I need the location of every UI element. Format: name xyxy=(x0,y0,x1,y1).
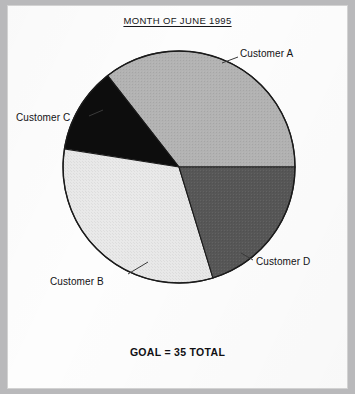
pie-label-customer-a: Customer A xyxy=(240,48,293,59)
pie-chart: Customer A Customer C Customer B Custome… xyxy=(8,6,347,388)
pie-chart-svg xyxy=(8,6,347,388)
pie-label-customer-c: Customer C xyxy=(16,112,70,123)
pie-label-customer-b: Customer B xyxy=(50,276,104,287)
pie-label-customer-d: Customer D xyxy=(256,256,310,267)
chart-goal-caption: GOAL = 35 TOTAL xyxy=(8,346,347,358)
document-page: MONTH OF JUNE 1995 xyxy=(8,6,347,388)
screenshot-root: MONTH OF JUNE 1995 xyxy=(0,0,355,394)
